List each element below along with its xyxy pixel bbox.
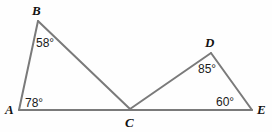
vertex-label-D: D: [205, 36, 214, 49]
vertex-label-B: B: [32, 4, 41, 17]
angle-label-D: 85°: [198, 63, 216, 75]
vertex-label-E: E: [257, 103, 266, 116]
segment-BC: [38, 21, 130, 109]
angle-label-E: 60°: [216, 96, 234, 108]
geometry-diagram: A B C D E 78° 58° 85° 60°: [0, 0, 272, 132]
angle-label-A: 78°: [25, 97, 43, 109]
angle-label-B: 58°: [36, 37, 54, 49]
vertex-label-A: A: [5, 103, 14, 116]
figure-svg: [0, 0, 272, 132]
vertex-label-C: C: [125, 116, 134, 129]
